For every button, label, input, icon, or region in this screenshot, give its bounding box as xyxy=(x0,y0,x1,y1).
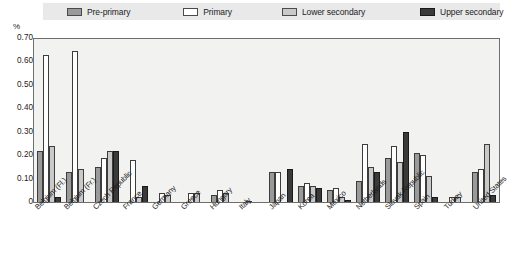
chart-legend: Pre-primary Primary Lower secondary Uppe… xyxy=(43,3,500,20)
x-axis-label-slot: France xyxy=(121,203,150,263)
x-axis-label-slot: Greece xyxy=(179,203,208,263)
x-axis-label-slot: Hungary xyxy=(208,203,237,263)
chart-container: Pre-primary Primary Lower secondary Uppe… xyxy=(0,0,509,263)
y-axis-tick-label: 0.50 xyxy=(0,80,33,89)
x-axis-label-slot: Belgium (Fr.) xyxy=(62,203,91,263)
bar-group xyxy=(470,39,499,202)
bar-group xyxy=(441,39,470,202)
x-axis-label-slot: Spain xyxy=(412,203,441,263)
bar-group xyxy=(150,39,179,202)
bar xyxy=(432,197,438,202)
legend-item-lower-secondary: Lower secondary xyxy=(282,3,365,20)
legend-item-primary: Primary xyxy=(183,3,232,20)
y-axis-tick-label: 0.60 xyxy=(0,56,33,65)
y-axis-tick-label: 0 xyxy=(0,197,33,206)
bar-group xyxy=(325,39,354,202)
y-axis-tick-label: 0.70 xyxy=(0,33,33,42)
bar-group xyxy=(179,39,208,202)
bar xyxy=(316,188,322,202)
legend-label-upper-secondary: Upper secondary xyxy=(440,7,503,17)
x-axis-label-slot: Slovak Republic xyxy=(383,203,412,263)
legend-swatch-upper-secondary xyxy=(420,8,435,16)
bar-group xyxy=(383,39,412,202)
x-axis-label-slot: Korea xyxy=(296,203,325,263)
legend-label-pre-primary: Pre-primary xyxy=(87,7,130,17)
bar-group xyxy=(237,39,266,202)
bar-group xyxy=(354,39,383,202)
x-axis-label-slot: Germany xyxy=(150,203,179,263)
bar-group xyxy=(208,39,237,202)
y-axis-unit-label: % xyxy=(13,22,20,31)
bar-groups xyxy=(34,39,499,202)
bar xyxy=(345,200,351,202)
legend-swatch-primary xyxy=(183,8,198,16)
bar-group xyxy=(296,39,325,202)
y-axis-tick-label: 0.10 xyxy=(0,174,33,183)
legend-label-primary: Primary xyxy=(203,7,232,17)
y-axis-tick-label: 0.20 xyxy=(0,150,33,159)
x-axis-label-slot: Mexico xyxy=(325,203,354,263)
legend-swatch-pre-primary xyxy=(67,8,82,16)
legend-item-upper-secondary: Upper secondary xyxy=(420,3,503,20)
bar xyxy=(287,169,293,202)
legend-swatch-lower-secondary xyxy=(282,8,297,16)
x-axis-label-slot: United States xyxy=(471,203,500,263)
bar-group xyxy=(267,39,296,202)
bar xyxy=(55,197,61,202)
x-axis-label-slot: Italy xyxy=(237,203,266,263)
x-axis-label-slot: Czech Republic xyxy=(91,203,120,263)
legend-label-lower-secondary: Lower secondary xyxy=(302,7,365,17)
y-axis-tick-label: 0.30 xyxy=(0,127,33,136)
x-axis-label-slot: Turkey xyxy=(442,203,471,263)
y-axis-tick-label: 0.40 xyxy=(0,103,33,112)
x-axis-label-slot: Japan xyxy=(267,203,296,263)
x-axis-label-slot: Netherlands xyxy=(354,203,383,263)
x-axis-label-slot: Belgium (Fl.) xyxy=(33,203,62,263)
legend-item-pre-primary: Pre-primary xyxy=(67,3,130,20)
x-axis-labels: Belgium (Fl.)Belgium (Fr.)Czech Republic… xyxy=(33,203,500,263)
